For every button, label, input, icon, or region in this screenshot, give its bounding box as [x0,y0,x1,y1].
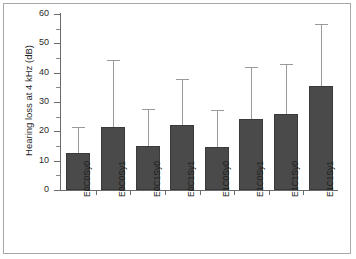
x-tick [303,191,304,195]
error-cap-E0C1Sy0 [142,109,155,110]
category-label-E0C0Sy0: E0C0Sy0 [82,137,92,197]
x-tick [200,191,201,195]
y-axis-line [60,13,61,191]
x-tick [165,191,166,195]
y-tick-major [54,161,60,162]
y-tick-major [54,14,60,15]
y-tick-major [54,73,60,74]
error-stem-E0C0Sy0 [78,127,79,153]
y-tick-minor [56,58,60,59]
y-tick-major [54,190,60,191]
error-stem-E0C1Sy1 [182,79,183,126]
category-label-E1C0Sy0: E1C0Sy0 [221,137,231,197]
category-label-E0C0Sy1: E0C0Sy1 [117,137,127,197]
y-tick-label: 30 [9,97,49,106]
y-tick-minor [56,117,60,118]
error-cap-E1C0Sy0 [211,110,224,111]
y-tick-major [54,43,60,44]
bar-chart: Hearing loss at 4 kHz (dB) 0102030405060… [0,0,356,259]
error-cap-E1C1Sy1 [315,24,328,25]
x-tick [269,191,270,195]
error-stem-E1C1Sy0 [286,64,287,113]
y-tick-label: 0 [9,185,49,194]
x-tick [234,191,235,195]
category-label-E0C1Sy1: E0C1Sy1 [186,137,196,197]
y-tick-minor [56,146,60,147]
category-label-E1C0Sy1: E1C0Sy1 [255,137,265,197]
y-tick-minor [56,87,60,88]
error-cap-E0C0Sy0 [72,127,85,128]
error-stem-E0C1Sy0 [148,109,149,145]
error-cap-E0C0Sy1 [107,60,120,61]
y-tick-label: 20 [9,126,49,135]
x-tick [96,191,97,195]
error-stem-E1C0Sy1 [251,67,252,119]
category-label-E0C1Sy0: E0C1Sy0 [152,137,162,197]
error-stem-E1C0Sy0 [217,110,218,148]
error-cap-E1C1Sy0 [280,64,293,65]
error-stem-E0C0Sy1 [113,60,114,127]
y-tick-major [54,102,60,103]
error-stem-E1C1Sy1 [321,24,322,86]
y-tick-minor [56,175,60,176]
y-tick-minor [56,29,60,30]
y-tick-label: 50 [9,38,49,47]
category-label-E1C1Sy0: E1C1Sy0 [290,137,300,197]
error-cap-E0C1Sy1 [176,79,189,80]
x-tick [130,191,131,195]
category-label-E1C1Sy1: E1C1Sy1 [325,137,335,197]
y-tick-label: 40 [9,68,49,77]
y-tick-label: 10 [9,156,49,165]
y-tick-major [54,131,60,132]
error-cap-E1C0Sy1 [245,67,258,68]
y-tick-label: 60 [9,9,49,18]
